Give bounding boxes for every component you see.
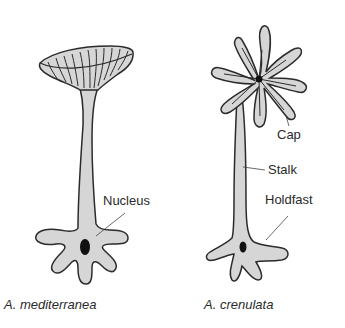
- nucleus-label: Nucleus: [103, 194, 150, 207]
- species-label-mediterranea: A. mediterranea: [4, 298, 97, 311]
- mediterranea-stalk: [36, 88, 128, 284]
- a-mediterranea-organism: [36, 46, 133, 284]
- crenulata-nucleus: [240, 242, 247, 253]
- crenulata-stalk: [207, 96, 288, 281]
- stalk-label: Stalk: [268, 163, 297, 176]
- a-crenulata-organism: [207, 26, 307, 281]
- cap-center-dot: [256, 76, 263, 83]
- holdfast-label: Holdfast: [265, 193, 313, 206]
- mediterranea-nucleus: [80, 239, 90, 255]
- cap-label: Cap: [277, 128, 301, 141]
- species-label-crenulata: A. crenulata: [204, 298, 273, 311]
- holdfast-leader-line: [266, 216, 288, 240]
